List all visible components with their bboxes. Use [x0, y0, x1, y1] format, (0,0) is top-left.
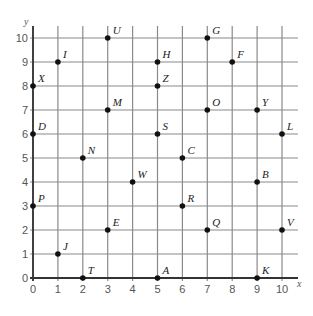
x-tick-label: 4	[130, 283, 136, 295]
point-label: N	[87, 144, 96, 156]
y-tick-label: 0	[22, 272, 28, 284]
point-marker	[155, 59, 161, 65]
y-tick-label: 1	[22, 248, 28, 260]
x-tick-label: 7	[204, 283, 210, 295]
point-label: V	[287, 216, 295, 228]
point-label: B	[262, 168, 269, 180]
x-tick-label: 5	[154, 283, 160, 295]
point-label: J	[63, 240, 69, 252]
point-marker	[55, 251, 61, 257]
point-marker	[80, 275, 86, 281]
point-marker	[229, 59, 235, 65]
point-marker	[30, 203, 36, 209]
y-tick-label: 5	[22, 152, 28, 164]
x-tick-label: 2	[80, 283, 86, 295]
point-label: D	[37, 120, 46, 132]
point-label: K	[261, 264, 270, 276]
y-tick-label: 6	[22, 128, 28, 140]
point-label: P	[37, 192, 45, 204]
y-tick-label: 3	[22, 200, 28, 212]
coordinate-grid: 012345678910012345678910 GUIHFXZMOYDSLNC…	[0, 0, 313, 316]
point-marker	[279, 227, 285, 233]
point-marker	[155, 83, 161, 89]
point-marker	[205, 227, 211, 233]
point-marker	[105, 107, 111, 113]
x-tick-label: 8	[229, 283, 235, 295]
point-label: C	[187, 144, 195, 156]
point-marker	[254, 179, 260, 185]
y-tick-label: 4	[22, 176, 28, 188]
point-label: I	[62, 48, 68, 60]
point-marker	[180, 155, 186, 161]
point-marker	[155, 275, 161, 281]
point-label: O	[212, 96, 220, 108]
point-marker	[205, 35, 211, 41]
point-marker	[30, 131, 36, 137]
point-label: W	[138, 168, 148, 180]
x-tick-label: 6	[179, 283, 185, 295]
y-tick-label: 9	[22, 56, 28, 68]
point-marker	[130, 179, 136, 185]
y-tick-label: 10	[16, 32, 28, 44]
point-marker	[105, 227, 111, 233]
point-label: G	[212, 24, 220, 36]
y-tick-label: 8	[22, 80, 28, 92]
point-label: L	[286, 120, 293, 132]
point-marker	[180, 203, 186, 209]
point-label: Q	[212, 216, 220, 228]
point-label: X	[37, 72, 46, 84]
point-label: U	[113, 24, 122, 36]
y-tick-label: 7	[22, 104, 28, 116]
y-tick-label: 2	[22, 224, 28, 236]
axes	[30, 26, 298, 281]
point-marker	[254, 107, 260, 113]
x-tick-label: 10	[276, 283, 288, 295]
point-label: Y	[262, 96, 270, 108]
y-axis-label: y	[23, 16, 29, 27]
point-marker	[279, 131, 285, 137]
point-marker	[105, 35, 111, 41]
point-marker	[80, 155, 86, 161]
point-label: F	[236, 48, 244, 60]
point-label: Z	[163, 72, 170, 84]
point-marker	[155, 131, 161, 137]
point-label: E	[112, 216, 120, 228]
x-tick-label: 0	[30, 283, 36, 295]
point-marker	[55, 59, 61, 65]
point-marker	[205, 107, 211, 113]
point-label: A	[162, 264, 170, 276]
x-tick-label: 9	[254, 283, 260, 295]
point-label: T	[88, 264, 95, 276]
point-label: H	[162, 48, 172, 60]
x-tick-label: 3	[105, 283, 111, 295]
point-label: S	[163, 120, 169, 132]
grid-lines	[30, 26, 298, 281]
point-marker	[30, 83, 36, 89]
x-axis-label: x	[296, 278, 302, 289]
x-tick-label: 1	[55, 283, 61, 295]
point-marker	[254, 275, 260, 281]
point-label: M	[112, 96, 123, 108]
point-label: R	[186, 192, 194, 204]
